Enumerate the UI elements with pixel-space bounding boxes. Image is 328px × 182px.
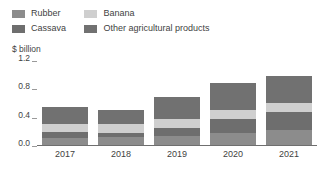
bar-2019: [154, 97, 200, 145]
x-axis-tick-2017: 2017: [43, 149, 87, 159]
plot-area: 0.00.40.81.220172018201920202021: [0, 0, 328, 182]
bar-segment-other-agricultural-products: [154, 97, 200, 119]
bar-segment-cassava: [154, 128, 200, 136]
x-axis-tick-2018: 2018: [99, 149, 143, 159]
chart-container: Rubber Cassava Banana Other agricultural…: [0, 0, 328, 182]
bar-segment-cassava: [266, 112, 312, 130]
y-axis-tick-dash: [32, 61, 37, 62]
bar-segment-other-agricultural-products: [42, 107, 88, 123]
bar-segment-other-agricultural-products: [210, 83, 256, 110]
bar-2017: [42, 107, 88, 145]
y-axis-tick: 0.4: [8, 110, 30, 120]
bar-segment-banana: [154, 119, 200, 128]
bar-2021: [266, 76, 312, 145]
x-axis-line: [37, 145, 317, 146]
y-axis-tick-dash: [32, 146, 37, 147]
x-axis-tick-2019: 2019: [155, 149, 199, 159]
y-axis-tick-dash: [32, 89, 37, 90]
bar-segment-rubber: [266, 130, 312, 145]
bar-segment-banana: [210, 110, 256, 119]
x-axis-tick-2020: 2020: [211, 149, 255, 159]
bar-segment-other-agricultural-products: [98, 110, 144, 124]
bar-segment-rubber: [42, 138, 88, 145]
x-axis-tick-2021: 2021: [267, 149, 311, 159]
bar-segment-other-agricultural-products: [266, 76, 312, 103]
bar-2018: [98, 110, 144, 145]
bar-segment-banana: [98, 124, 144, 133]
y-axis-tick: 0.8: [8, 81, 30, 91]
bar-segment-cassava: [210, 119, 256, 132]
y-axis-tick-dash: [32, 118, 37, 119]
bar-2020: [210, 83, 256, 145]
bar-segment-rubber: [210, 133, 256, 145]
bar-segment-rubber: [98, 137, 144, 145]
bar-segment-rubber: [154, 136, 200, 145]
bar-segment-banana: [42, 124, 88, 133]
y-axis-tick: 0.0: [8, 138, 30, 148]
y-axis-tick: 1.2: [8, 53, 30, 63]
bar-segment-banana: [266, 103, 312, 112]
